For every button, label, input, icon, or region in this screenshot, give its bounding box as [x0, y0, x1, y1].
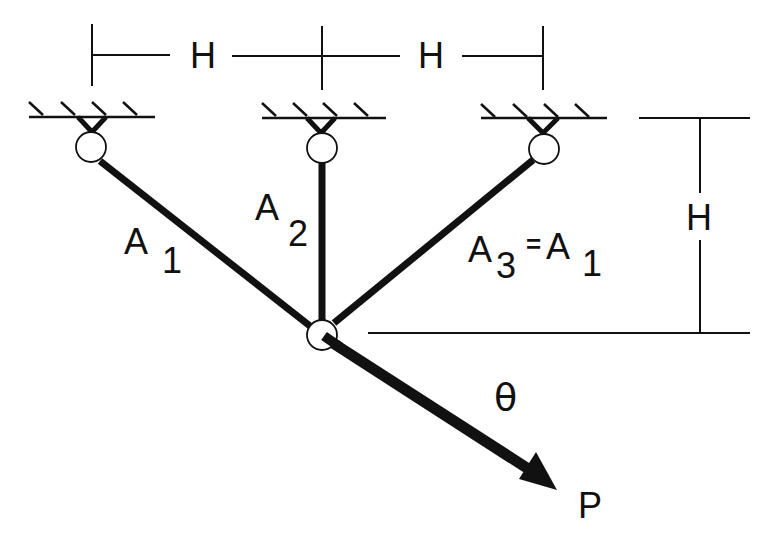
right-dim-label: H	[686, 197, 712, 238]
load-p-label: P	[578, 485, 602, 526]
support-right	[481, 104, 607, 133]
bar3-eq-subscript: 1	[582, 243, 602, 284]
load-arrow	[322, 336, 557, 490]
top-dim-right-label: H	[418, 35, 444, 76]
pin-center	[307, 133, 337, 163]
bar2-subscript: 2	[288, 213, 308, 254]
bar1-label: A	[124, 221, 148, 262]
pin-left	[76, 132, 106, 162]
bar-a3	[334, 160, 533, 323]
top-dimension	[92, 24, 543, 90]
angle-theta-label: θ	[494, 375, 517, 419]
bar2-label: A	[255, 187, 279, 228]
bar3-eq-label: A	[546, 226, 570, 267]
bar3-label: A	[468, 229, 492, 270]
bar3-subscript: 3	[496, 245, 516, 286]
support-left	[29, 102, 155, 132]
bar3-equals: =	[526, 229, 541, 259]
bar1-subscript: 1	[162, 240, 182, 281]
support-center	[262, 103, 386, 133]
top-dim-left-label: H	[190, 35, 216, 76]
pin-right	[529, 134, 559, 164]
truss-diagram: H H H	[0, 0, 767, 543]
